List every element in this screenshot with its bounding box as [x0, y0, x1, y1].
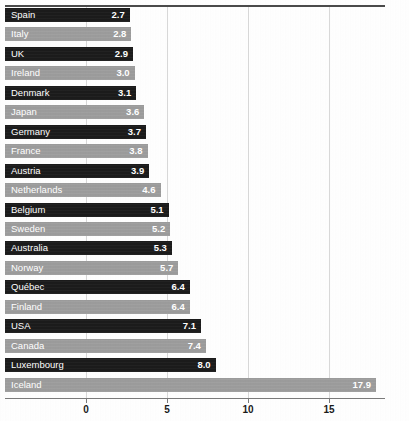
bar-usa: USA7.1	[5, 319, 201, 333]
bar-category-label: Luxembourg	[11, 360, 64, 370]
bar-category-label: Australia	[11, 243, 48, 253]
bar-row: Iceland17.9	[5, 378, 376, 392]
bar-row: Québec6.4	[5, 280, 190, 294]
bar-value-label: 2.9	[115, 49, 128, 59]
bar-finland: Finland6.4	[5, 300, 190, 314]
plot-area: Spain2.7Italy2.8UK2.9Ireland3.0Denmark3.…	[0, 7, 409, 399]
x-tick-5	[167, 399, 168, 403]
bar-value-label: 5.2	[152, 224, 165, 234]
x-tick-0	[86, 399, 87, 403]
bar-category-label: Norway	[11, 263, 43, 273]
bar-australia: Australia5.3	[5, 241, 172, 255]
bar-row: Ireland3.0	[5, 66, 135, 80]
bar-value-label: 8.0	[197, 360, 210, 370]
bar-chart: Spain2.7Italy2.8UK2.9Ireland3.0Denmark3.…	[0, 0, 409, 421]
x-axis-line	[5, 398, 385, 399]
bar-value-label: 5.1	[150, 205, 163, 215]
bar-row: Norway5.7	[5, 261, 178, 275]
bar-value-label: 17.9	[352, 380, 371, 390]
bar-value-label: 7.1	[183, 321, 196, 331]
bar-category-label: USA	[11, 321, 31, 331]
x-tick-label-10: 10	[242, 404, 253, 415]
bar-belgium: Belgium5.1	[5, 203, 169, 217]
bar-austria: Austria3.9	[5, 164, 149, 178]
bar-category-label: Sweden	[11, 224, 45, 234]
bar-value-label: 3.9	[131, 166, 144, 176]
bar-texture	[5, 319, 201, 333]
bar-value-label: 3.0	[116, 68, 129, 78]
bar-row: Italy2.8	[5, 27, 131, 41]
bar-row: Netherlands4.6	[5, 183, 161, 197]
bar-category-label: Italy	[11, 29, 28, 39]
bar-netherlands: Netherlands4.6	[5, 183, 161, 197]
bar-category-label: UK	[11, 49, 24, 59]
bar-denmark: Denmark3.1	[5, 86, 136, 100]
gridline-10	[248, 7, 249, 399]
bar-row: Denmark3.1	[5, 86, 136, 100]
bar-category-label: Netherlands	[11, 185, 62, 195]
bar-canada: Canada7.4	[5, 339, 206, 353]
bar-value-label: 6.4	[171, 282, 184, 292]
bar-ireland: Ireland3.0	[5, 66, 135, 80]
bar-category-label: Austria	[11, 166, 41, 176]
bar-category-label: Canada	[11, 341, 44, 351]
bar-row: Canada7.4	[5, 339, 206, 353]
bar-row: Luxembourg8.0	[5, 358, 216, 372]
bar-row: USA7.1	[5, 319, 201, 333]
bar-value-label: 3.8	[129, 146, 142, 156]
bar-row: Germany3.7	[5, 125, 146, 139]
bar-luxembourg: Luxembourg8.0	[5, 358, 216, 372]
bar-value-label: 2.7	[112, 10, 125, 20]
bar-value-label: 6.4	[171, 302, 184, 312]
x-tick-10	[248, 399, 249, 403]
bar-france: France3.8	[5, 144, 148, 158]
bar-spain: Spain2.7	[5, 8, 130, 22]
x-tick-15	[329, 399, 330, 403]
bar-category-label: Québec	[11, 282, 44, 292]
bar-texture	[5, 378, 376, 392]
bar-value-label: 5.7	[160, 263, 173, 273]
bar-category-label: Finland	[11, 302, 42, 312]
bar-category-label: Iceland	[11, 380, 42, 390]
bar-row: Finland6.4	[5, 300, 190, 314]
bar-value-label: 2.8	[113, 29, 126, 39]
bar-value-label: 3.7	[128, 127, 141, 137]
bar-uk: UK2.9	[5, 47, 133, 61]
bar-iceland: Iceland17.9	[5, 378, 376, 392]
bar-category-label: Ireland	[11, 68, 40, 78]
bar-row: Belgium5.1	[5, 203, 169, 217]
gridline-15	[329, 7, 330, 399]
bar-value-label: 4.6	[142, 185, 155, 195]
bar-germany: Germany3.7	[5, 125, 146, 139]
bar-qu-bec: Québec6.4	[5, 280, 190, 294]
bar-category-label: Germany	[11, 127, 50, 137]
bar-italy: Italy2.8	[5, 27, 131, 41]
bar-category-label: Spain	[11, 10, 35, 20]
x-tick-label-15: 15	[323, 404, 334, 415]
bar-japan: Japan3.6	[5, 105, 144, 119]
bar-norway: Norway5.7	[5, 261, 178, 275]
bar-row: Australia5.3	[5, 241, 172, 255]
bar-row: Sweden5.2	[5, 222, 170, 236]
bar-category-label: Japan	[11, 107, 37, 117]
bar-row: Japan3.6	[5, 105, 144, 119]
bar-row: Austria3.9	[5, 164, 149, 178]
bar-value-label: 3.6	[126, 107, 139, 117]
bar-sweden: Sweden5.2	[5, 222, 170, 236]
bar-row: UK2.9	[5, 47, 133, 61]
bar-row: Spain2.7	[5, 8, 130, 22]
x-tick-label-5: 5	[164, 404, 170, 415]
bar-category-label: Belgium	[11, 205, 45, 215]
x-tick-label-0: 0	[83, 404, 89, 415]
bar-row: France3.8	[5, 144, 148, 158]
bar-category-label: France	[11, 146, 41, 156]
bar-value-label: 7.4	[188, 341, 201, 351]
bar-value-label: 3.1	[118, 88, 131, 98]
bar-category-label: Denmark	[11, 88, 50, 98]
bar-value-label: 5.3	[154, 243, 167, 253]
